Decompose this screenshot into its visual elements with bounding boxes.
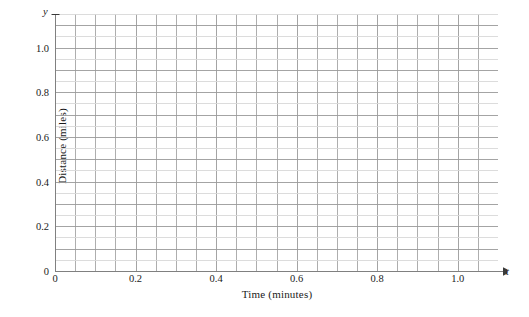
x-tick-label: 1.0 xyxy=(433,273,483,284)
x-tick-label: 0 xyxy=(30,273,80,284)
x-tick-label: 0.4 xyxy=(191,273,241,284)
x-axis-title: Time (minutes) xyxy=(55,288,499,300)
x-tick-label: 0.6 xyxy=(272,273,322,284)
plot-area xyxy=(55,14,498,271)
x-tick-label: 0.8 xyxy=(352,273,402,284)
y-tick-label: 0.8 xyxy=(9,87,49,98)
y-tick-label: 0.4 xyxy=(9,176,49,187)
x-axis-variable-label: t xyxy=(506,266,509,277)
y-axis-variable-label: y xyxy=(43,6,48,17)
y-tick-label: 0.6 xyxy=(9,131,49,142)
grid-lines xyxy=(55,14,498,271)
y-axis-tick-labels: 00.20.40.60.81.0 xyxy=(5,14,49,271)
chart-figure: Distance (miles) 00.20.40.60.81.0 00.20.… xyxy=(0,0,529,317)
y-tick-label: 1.0 xyxy=(9,42,49,53)
x-tick-label: 0.2 xyxy=(111,273,161,284)
x-axis-tick-labels: 00.20.40.60.81.0 xyxy=(55,273,505,289)
y-tick-label: 0.2 xyxy=(9,221,49,232)
